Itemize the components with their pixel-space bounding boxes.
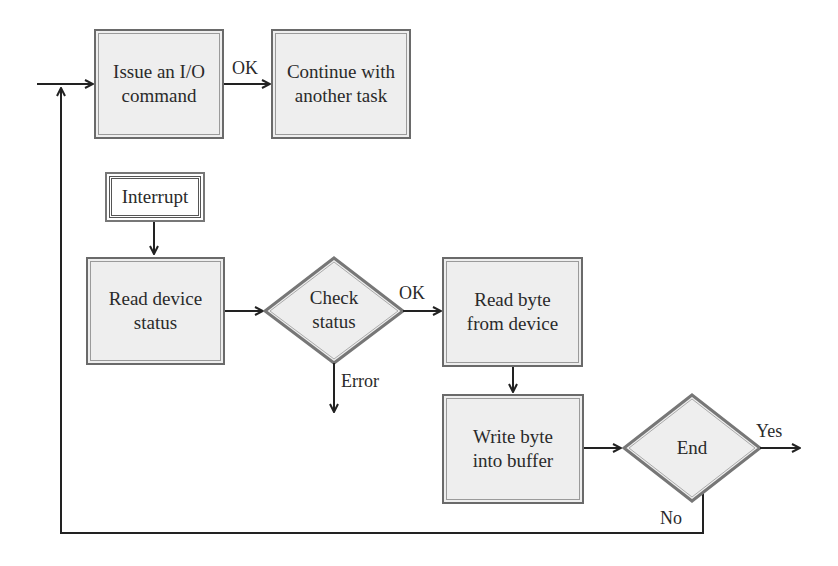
check-status-label: Check status — [284, 286, 384, 334]
issue-io-command-box: Issue an I/O command — [94, 29, 224, 139]
interrupt-label: Interrupt — [122, 186, 188, 208]
read-byte-box: Read byte from device — [442, 257, 583, 367]
edge-label-no: No — [660, 508, 682, 528]
read-byte-label-line2: from device — [467, 312, 558, 336]
issue-io-label-line1: Issue an I/O — [113, 60, 205, 84]
edge-label-yes: Yes — [756, 421, 782, 441]
write-byte-label-line1: Write byte — [473, 425, 553, 449]
write-byte-box: Write byte into buffer — [442, 394, 584, 504]
edge-label-error: Error — [341, 371, 379, 391]
edge-label-ok-top: OK — [232, 58, 258, 78]
interrupt-box: Interrupt — [109, 176, 201, 218]
continue-label-line2: another task — [287, 84, 395, 108]
continue-label-line1: Continue with — [287, 60, 395, 84]
read-device-status-box: Read device status — [86, 257, 225, 365]
read-byte-label-line1: Read byte — [467, 288, 558, 312]
issue-io-label-line2: command — [113, 84, 205, 108]
check-label-line2: status — [284, 310, 384, 334]
continue-task-box: Continue with another task — [271, 29, 411, 139]
read-status-label-line1: Read device — [109, 287, 202, 311]
read-status-label-line2: status — [109, 311, 202, 335]
write-byte-label-line2: into buffer — [473, 449, 553, 473]
edge-label-ok-check: OK — [399, 283, 425, 303]
end-label: End — [652, 436, 732, 460]
check-label-line1: Check — [284, 286, 384, 310]
